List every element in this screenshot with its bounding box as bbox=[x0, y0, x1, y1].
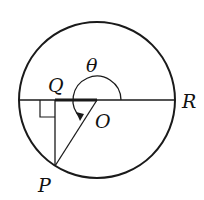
circle-diagram: θ Q R O P bbox=[0, 0, 204, 200]
segment-op bbox=[55, 100, 97, 166]
label-r: R bbox=[181, 90, 196, 112]
label-q: Q bbox=[48, 74, 64, 96]
label-p: P bbox=[37, 174, 52, 196]
right-angle-marker bbox=[40, 100, 55, 117]
label-o: O bbox=[95, 110, 111, 132]
label-theta: θ bbox=[86, 54, 98, 76]
arrowhead-icon bbox=[76, 112, 84, 121]
